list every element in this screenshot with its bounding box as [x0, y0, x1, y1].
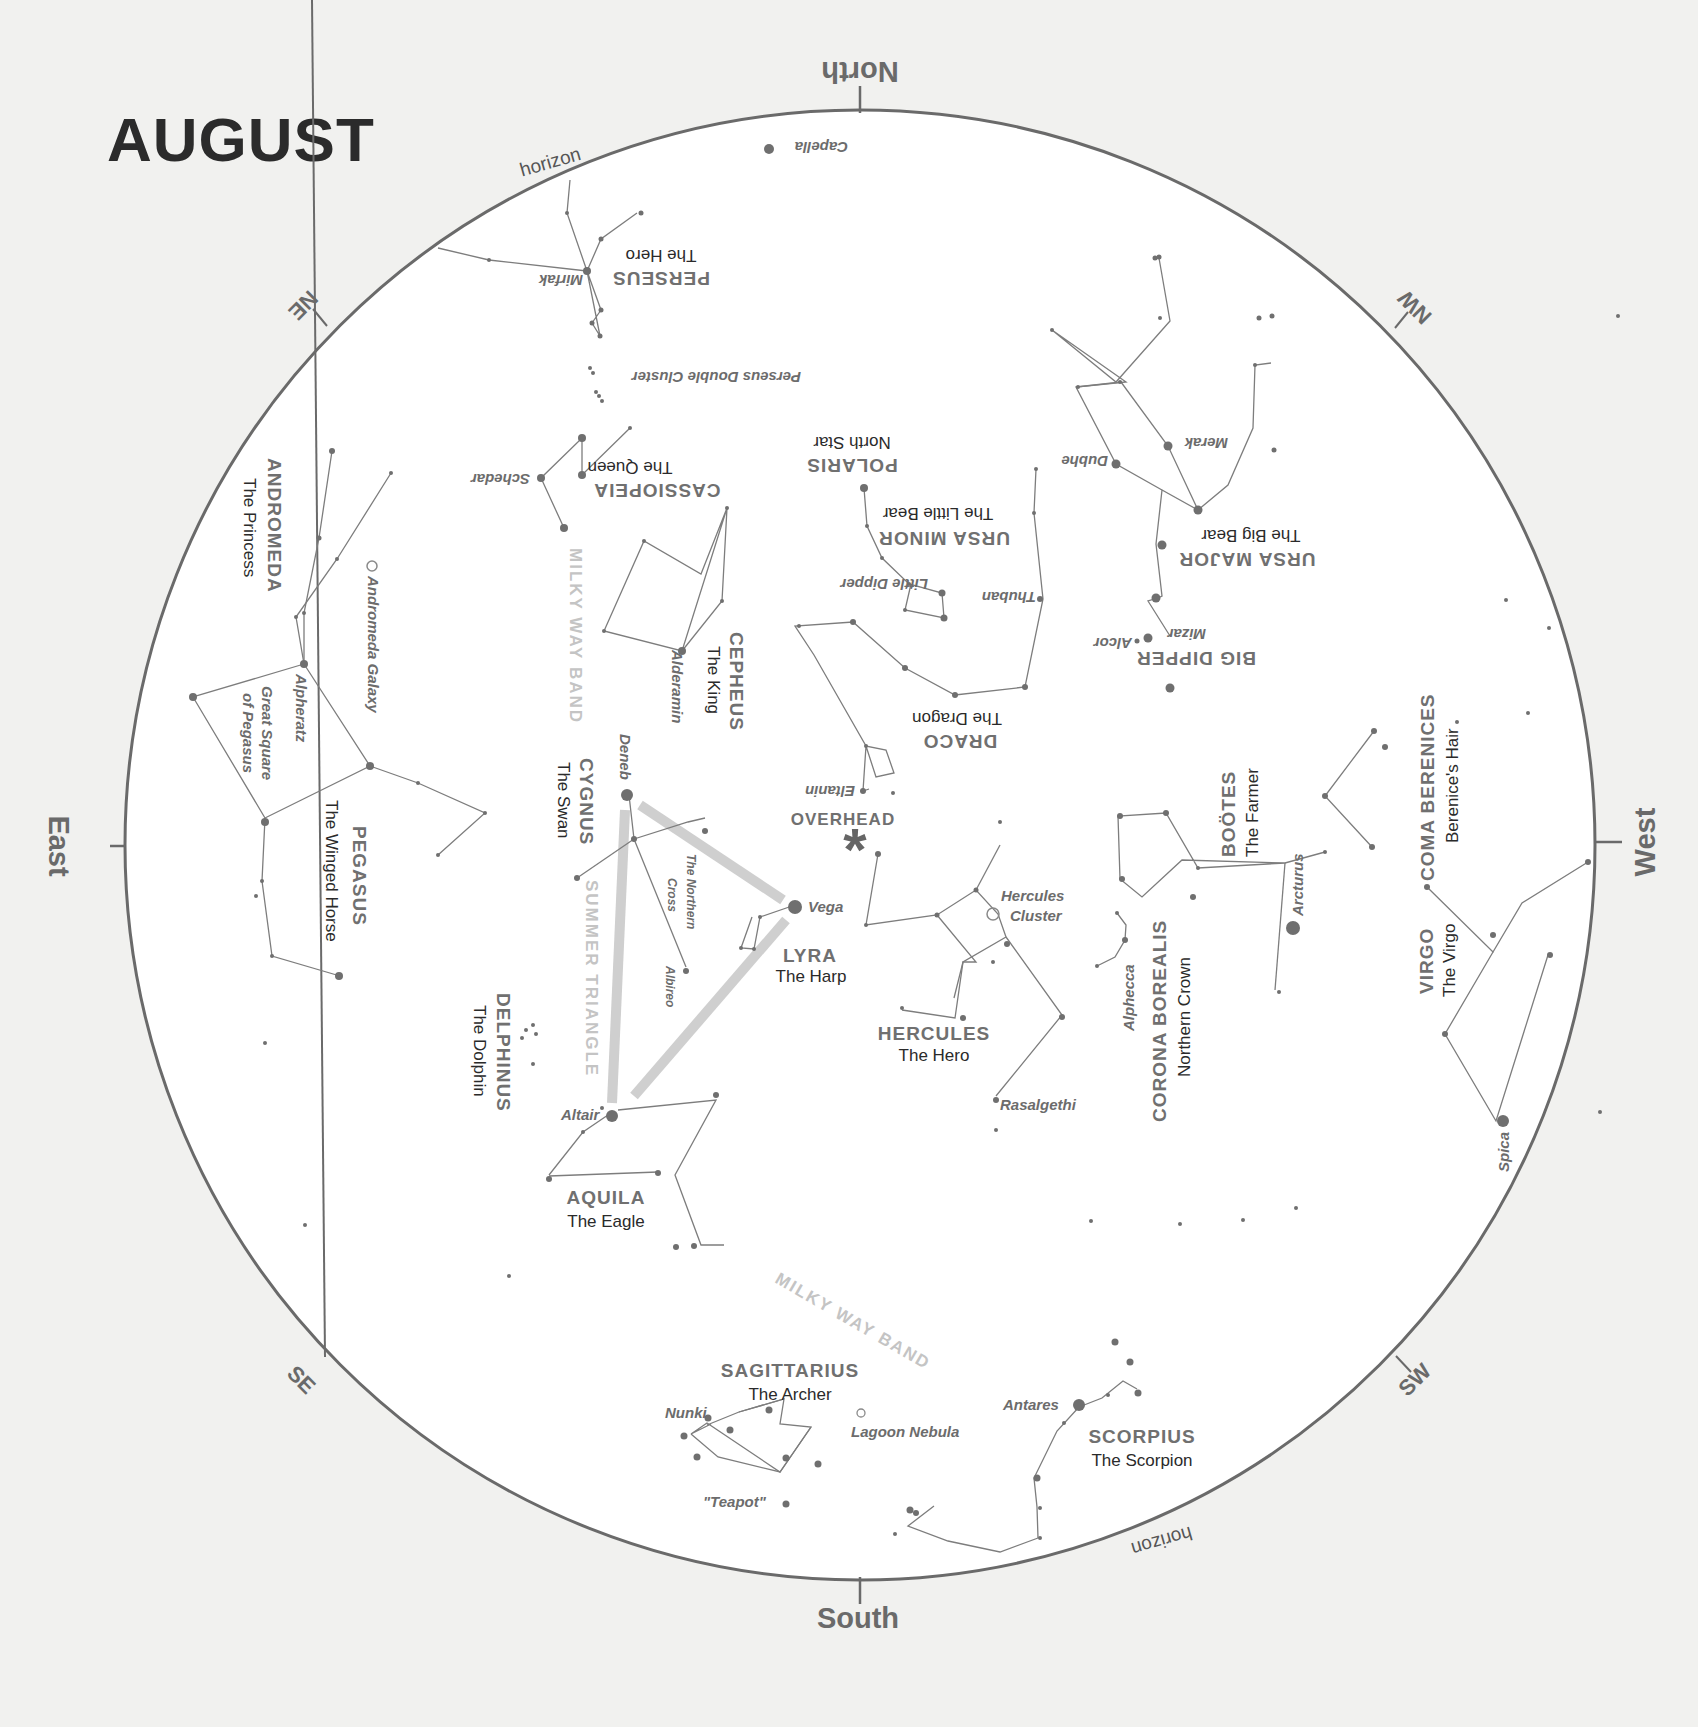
alderamin-label: Alderamin [669, 649, 686, 723]
hercules-cluster-label-1: Hercules [1001, 887, 1064, 904]
mizar-label: Mizar [1166, 626, 1206, 643]
vega-label: Vega [808, 898, 843, 915]
svg-text:The Little Bear: The Little Bear [882, 504, 993, 523]
svg-text:The Virgo: The Virgo [1440, 924, 1459, 997]
svg-text:The Dolphin: The Dolphin [470, 1005, 489, 1097]
se-label: SE [282, 1360, 320, 1398]
little-dipper-label: Little Dipper [839, 576, 928, 593]
overhead-label: OVERHEAD [791, 810, 895, 829]
teapot-label: "Teapot" [703, 1493, 767, 1510]
antares-label: Antares [1002, 1396, 1059, 1413]
svg-text:VIRGO: VIRGO [1416, 928, 1437, 994]
thuban-label: Thuban [982, 589, 1036, 606]
svg-text:The Big Bear: The Big Bear [1201, 526, 1301, 545]
northern-cross-label-1: The Northern [684, 854, 698, 929]
svg-text:CORONA BOREALIS: CORONA BOREALIS [1149, 920, 1170, 1122]
great-square-label-2: of Pegasus [240, 693, 257, 773]
svg-text:The Queen: The Queen [587, 458, 672, 477]
albireo-label: Albireo [663, 965, 677, 1007]
lagoon-nebula-label: Lagoon Nebula [851, 1423, 959, 1440]
alphecca-label: Alphecca [1120, 964, 1137, 1032]
hercules-cluster-label-2: Cluster [1010, 907, 1063, 924]
star-chart: AUGUST North South East West NE NW SE SW… [0, 0, 1698, 1727]
svg-text:The Farmer: The Farmer [1243, 768, 1262, 857]
svg-text:PERSEUS: PERSEUS [612, 268, 710, 289]
svg-text:Northern Crown: Northern Crown [1175, 957, 1194, 1077]
svg-text:SCORPIUS: SCORPIUS [1088, 1426, 1195, 1447]
big-dipper-label: BIG DIPPER [1136, 648, 1256, 669]
svg-text:ANDROMEDA: ANDROMEDA [264, 458, 285, 593]
dubhe-label: Dubhe [1061, 453, 1108, 470]
schedar-label: Schedar [470, 471, 530, 488]
svg-text:The King: The King [704, 646, 723, 714]
lyra-label: LYRA The Harp [776, 945, 847, 986]
svg-text:The Eagle: The Eagle [567, 1212, 645, 1231]
summer-triangle-label: SUMMER TRIANGLE [582, 880, 601, 1077]
svg-text:BIG DIPPER: BIG DIPPER [1136, 648, 1256, 669]
mirfak-label: Mirfak [538, 272, 583, 289]
andromeda-galaxy-label: Andromeda Galaxy [365, 575, 382, 713]
nunki-label: Nunki [665, 1404, 708, 1421]
altair-label: Altair [560, 1106, 601, 1123]
double-cluster-label: Perseus Double Cluster [631, 369, 801, 386]
svg-text:The Swan: The Swan [554, 762, 573, 839]
svg-text:AQUILA: AQUILA [567, 1187, 646, 1208]
svg-text:URSA MINOR: URSA MINOR [878, 528, 1010, 549]
svg-text:PEGASUS: PEGASUS [349, 826, 370, 926]
north-label: North [821, 56, 898, 88]
svg-text:SAGITTARIUS: SAGITTARIUS [721, 1360, 859, 1381]
ne-label: NE [284, 286, 323, 325]
svg-text:DELPHINUS: DELPHINUS [493, 993, 514, 1112]
svg-text:The Princess: The Princess [240, 478, 259, 577]
svg-text:Berenice's Hair: Berenice's Hair [1443, 728, 1462, 843]
svg-text:POLARIS: POLARIS [806, 455, 897, 476]
svg-text:The Hero: The Hero [899, 1046, 970, 1065]
svg-text:The Harp: The Harp [776, 967, 847, 986]
rasalgethi-label: Rasalgethi [1000, 1096, 1077, 1113]
svg-text:BOÖTES: BOÖTES [1218, 771, 1239, 857]
arcturus-label: Arcturus [1289, 853, 1306, 917]
svg-text:URSA MAJOR: URSA MAJOR [1178, 549, 1315, 570]
east-label: East [43, 815, 75, 877]
svg-text:HERCULES: HERCULES [878, 1023, 991, 1044]
svg-text:The Scorpion: The Scorpion [1091, 1451, 1192, 1470]
spica-label: Spica [1495, 1132, 1512, 1172]
svg-text:The Archer: The Archer [748, 1385, 831, 1404]
svg-text:DRACO: DRACO [923, 731, 998, 752]
svg-text:LYRA: LYRA [783, 945, 837, 966]
svg-text:COMA BERENICES: COMA BERENICES [1417, 694, 1438, 881]
merak-label: Merak [1184, 435, 1228, 452]
svg-text:North Star: North Star [813, 433, 891, 452]
svg-text:The Hero: The Hero [626, 246, 697, 265]
eltanin-label: Eltanin [805, 783, 855, 800]
horizon-label-bottom: horizon [1129, 1523, 1195, 1560]
svg-text:CEPHEUS: CEPHEUS [726, 632, 747, 731]
great-square-label-1: Great Square [259, 686, 276, 780]
capella-label: Capella [795, 139, 848, 156]
alcor-label: Alcor [1092, 635, 1133, 652]
south-label: South [817, 1602, 899, 1634]
svg-text:CYGNUS: CYGNUS [576, 758, 597, 845]
svg-text:The Winged Horse: The Winged Horse [322, 800, 341, 942]
northern-cross-label-2: Cross [665, 878, 679, 912]
svg-text:CASSIOPEIA: CASSIOPEIA [593, 480, 720, 501]
deneb-label: Deneb [617, 734, 634, 780]
svg-text:The Dragon: The Dragon [912, 709, 1002, 728]
west-label: West [1629, 807, 1661, 876]
alpheratz-label: Alpheratz [293, 673, 310, 743]
milky-way-band-north: MILKY WAY BAND [566, 548, 585, 724]
sw-label: SW [1393, 1358, 1436, 1401]
